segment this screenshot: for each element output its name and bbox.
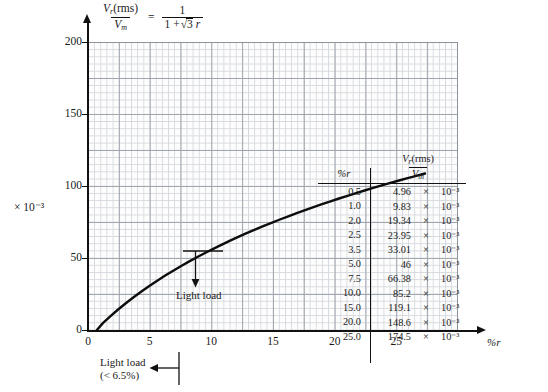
table-header-col-ratio: Vr(rms) Vm: [370, 153, 466, 182]
formula-rhs-num: 1: [176, 4, 188, 17]
table-header-num-rest: (rms): [412, 153, 434, 164]
table-header-den-sub: m: [418, 172, 424, 181]
light-load-annotation: Light load: [176, 289, 222, 301]
x-tick-label: 15: [258, 336, 288, 348]
table-cell-ratio: 4.96×10⁻³: [370, 185, 466, 197]
formula-lhs-num-v: V: [103, 2, 110, 14]
formula-rhs-den-pre: 1 +: [165, 18, 180, 30]
y-tick-mark: [82, 186, 87, 187]
sqrt-icon: √3: [180, 18, 193, 31]
table-cell-r: 10.0: [318, 287, 370, 298]
table-row: 7.566.38×10⁻³: [318, 271, 466, 286]
formula-equals: =: [148, 11, 155, 23]
x-axis-name: %r: [487, 336, 500, 348]
x-tick-label: 10: [196, 336, 226, 348]
x-axis-arrow-icon: [477, 326, 486, 334]
formula-title: Vr(rms) Vm = 1 1 +√3 r: [100, 2, 203, 33]
table-cell-ratio: 19.34×10⁻³: [370, 214, 466, 226]
table-cell-r: 2.0: [318, 215, 370, 226]
x-tick-label: 25: [381, 336, 411, 348]
table-cell-r: 1.0: [318, 200, 370, 211]
formula-lhs-den-sub: m: [121, 23, 127, 32]
formula-rhs: 1 1 +√3 r: [162, 4, 204, 31]
table-cell-r: 0.5: [318, 186, 370, 197]
y-tick-mark: [82, 42, 87, 43]
y-tick-mark: [82, 114, 87, 115]
table-cell-ratio: 9.83×10⁻³: [370, 200, 466, 212]
x-tick-label: 20: [320, 336, 350, 348]
table-header-row: %r Vr(rms) Vm: [318, 142, 466, 182]
table-cell-ratio: 66.38×10⁻³: [370, 272, 466, 284]
y-axis-line: [87, 22, 89, 332]
table-row: 2.523.95×10⁻³: [318, 228, 466, 243]
table-row: 2.019.34×10⁻³: [318, 213, 466, 228]
formula-radicand: 3: [187, 18, 193, 30]
table-cell-r: 20.0: [318, 316, 370, 327]
y-tick-mark: [82, 258, 87, 259]
table-header-col-r: %r: [318, 168, 370, 182]
x-tick-label: 5: [135, 336, 165, 348]
x-tick-label: 0: [73, 336, 103, 348]
y-axis-arrow-icon: [83, 14, 91, 23]
table-row: 0.54.96×10⁻³: [318, 184, 466, 199]
table-cell-ratio: 46×10⁻³: [370, 258, 466, 270]
table-row: 15.0119.1×10⁻³: [318, 300, 466, 315]
light-load-range-line2: (< 6.5%): [100, 369, 146, 382]
table-cell-r: 5.0: [318, 258, 370, 269]
table-cell-ratio: 148.6×10⁻³: [370, 316, 466, 328]
formula-rhs-den-post: r: [196, 18, 200, 30]
formula-lhs-num-rest: (rms): [113, 2, 138, 14]
table-row: 5.046×10⁻³: [318, 257, 466, 272]
table-vertical-divider: [370, 168, 371, 363]
light-load-range-line1: Light load: [100, 356, 146, 369]
y-axis-multiplier: × 10⁻³: [14, 200, 44, 214]
table-cell-ratio: 23.95×10⁻³: [370, 229, 466, 241]
table-cell-ratio: 119.1×10⁻³: [370, 301, 466, 313]
table-body: 0.54.96×10⁻³1.09.83×10⁻³2.019.34×10⁻³2.5…: [318, 184, 466, 344]
table-cell-r: 3.5: [318, 244, 370, 255]
table-row: 20.0148.6×10⁻³: [318, 315, 466, 330]
table-cell-r: 15.0: [318, 302, 370, 313]
formula-lhs: Vr(rms) Vm: [100, 2, 141, 33]
table-row: 10.085.2×10⁻³: [318, 286, 466, 301]
table-cell-ratio: 33.01×10⁻³: [370, 243, 466, 255]
table-row: 1.09.83×10⁻³: [318, 199, 466, 214]
y-tick-mark: [82, 330, 87, 331]
table-cell-ratio: 85.2×10⁻³: [370, 287, 466, 299]
figure-root: Vr(rms) Vm = 1 1 +√3 r × 10⁻³ %r Light l…: [0, 0, 548, 392]
table-cell-r: 7.5: [318, 273, 370, 284]
light-load-range-annotation: Light load (< 6.5%): [100, 356, 146, 383]
table-cell-r: 2.5: [318, 229, 370, 240]
table-row: 3.533.01×10⁻³: [318, 242, 466, 257]
data-table: %r Vr(rms) Vm 0.54.96×10⁻³1.09.83×10⁻³2.…: [318, 142, 466, 344]
